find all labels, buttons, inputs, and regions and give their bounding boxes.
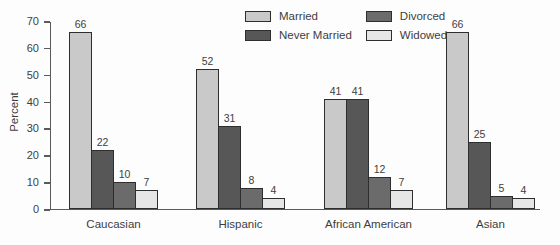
y-axis-tick [44, 155, 50, 157]
legend-item-never-married: Never Married [245, 29, 352, 41]
bar-rect-widowed [135, 190, 158, 209]
y-tick-label: 60 [13, 42, 39, 54]
bar-value-label: 5 [499, 182, 505, 195]
legend-label: Married [279, 10, 318, 22]
y-axis-tick [44, 102, 50, 104]
bar-never-married-asian: 25 [468, 128, 491, 209]
y-axis-tick [44, 21, 50, 23]
bar-value-label: 22 [97, 136, 109, 149]
y-tick-label: 10 [13, 176, 39, 188]
bar-married-asian: 66 [446, 18, 469, 209]
bar-group-caucasian: 6622107 [69, 18, 158, 209]
bar-rect-never-married [468, 142, 491, 209]
bar-never-married-hispanic: 31 [218, 112, 241, 209]
y-tick-label: 40 [13, 96, 39, 108]
y-axis-tick [44, 209, 50, 211]
y-axis-tick [44, 48, 50, 50]
bar-group-african-american: 4141127 [324, 85, 413, 209]
legend-label: Widowed [400, 29, 447, 41]
bar-divorced-caucasian: 10 [113, 168, 136, 209]
legend-label: Divorced [400, 10, 445, 22]
bar-value-label: 4 [271, 184, 277, 197]
bar-widowed-hispanic: 4 [262, 184, 285, 209]
bar-married-caucasian: 66 [69, 18, 92, 209]
legend-label: Never Married [279, 29, 352, 41]
plot-area: 0102030405060706622107Caucasian523184His… [50, 22, 540, 210]
bar-value-label: 66 [75, 18, 87, 31]
bar-rect-married [324, 99, 347, 209]
bar-value-label: 31 [224, 112, 236, 125]
bar-value-label: 7 [399, 176, 405, 189]
y-axis-tick [44, 75, 50, 77]
bar-never-married-african-american: 41 [346, 85, 369, 209]
bar-chart-figure: Percent 0102030405060706622107Caucasian5… [0, 0, 560, 245]
bar-value-label: 66 [452, 18, 464, 31]
bar-value-label: 25 [474, 128, 486, 141]
bar-rect-widowed [262, 198, 285, 209]
bar-divorced-african-american: 12 [368, 163, 391, 209]
y-axis-tick [44, 128, 50, 130]
legend-swatch-divorced [366, 11, 392, 22]
y-axis-title: Percent [8, 72, 20, 152]
bar-married-african-american: 41 [324, 85, 347, 209]
bar-value-label: 52 [202, 55, 214, 68]
legend-swatch-married [245, 11, 271, 22]
bar-rect-married [196, 69, 219, 209]
bar-divorced-hispanic: 8 [240, 174, 263, 209]
y-tick-label: 20 [13, 149, 39, 161]
bar-rect-never-married [346, 99, 369, 209]
bar-widowed-african-american: 7 [390, 176, 413, 209]
bar-rect-divorced [368, 177, 391, 209]
bar-value-label: 10 [119, 168, 131, 181]
bar-group-hispanic: 523184 [196, 55, 285, 209]
bar-value-label: 12 [374, 163, 386, 176]
bar-widowed-asian: 4 [512, 184, 535, 209]
legend-item-widowed: Widowed [366, 29, 447, 41]
y-tick-label: 0 [13, 203, 39, 215]
y-tick-label: 30 [13, 122, 39, 134]
bar-rect-divorced [113, 182, 136, 209]
bar-rect-divorced [490, 196, 513, 209]
bar-rect-never-married [218, 126, 241, 209]
bar-value-label: 7 [144, 176, 150, 189]
bar-group-asian: 662554 [446, 18, 535, 209]
legend-swatch-never-married [245, 30, 271, 41]
bar-rect-married [69, 32, 92, 209]
y-tick-label: 50 [13, 69, 39, 81]
bar-rect-divorced [240, 188, 263, 209]
bar-value-label: 8 [249, 174, 255, 187]
y-axis-tick [44, 182, 50, 184]
bar-value-label: 41 [330, 85, 342, 98]
legend-item-divorced: Divorced [366, 10, 447, 22]
bar-married-hispanic: 52 [196, 55, 219, 209]
bar-rect-widowed [390, 190, 413, 209]
bar-rect-widowed [512, 198, 535, 209]
legend-item-married: Married [245, 10, 352, 22]
bar-value-label: 41 [352, 85, 364, 98]
legend-swatch-widowed [366, 30, 392, 41]
bar-never-married-caucasian: 22 [91, 136, 114, 209]
bar-divorced-asian: 5 [490, 182, 513, 209]
bar-widowed-caucasian: 7 [135, 176, 158, 209]
bar-rect-married [446, 32, 469, 209]
x-category-label-asian: Asian [416, 218, 560, 230]
bar-value-label: 4 [521, 184, 527, 197]
legend: MarriedDivorcedNever MarriedWidowed [245, 10, 447, 41]
y-tick-label: 70 [13, 15, 39, 27]
bar-rect-never-married [91, 150, 114, 209]
